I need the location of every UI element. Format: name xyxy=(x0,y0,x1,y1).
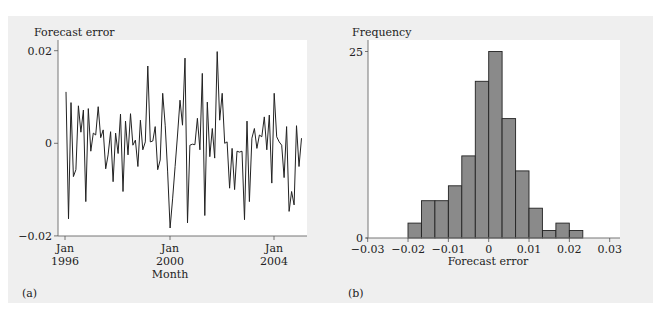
x-tick-label: −0.03 xyxy=(351,243,385,256)
x-axis-label: Month xyxy=(152,268,188,281)
x-tick-label: −0.02 xyxy=(391,243,425,256)
y-ticks: 0.020−0.02 xyxy=(18,45,58,243)
x-ticks: Jan1996Jan2000Jan2004 xyxy=(51,236,288,268)
x-axis-label: Forecast error xyxy=(448,255,529,268)
x-tick-label: 0.02 xyxy=(557,243,582,256)
histogram-bar xyxy=(475,81,488,238)
histogram-panel: Frequency 250 −0.03−0.02−0.0100.010.020.… xyxy=(348,26,622,300)
figure: Forecast error 0.020−0.02 Jan1996Jan2000… xyxy=(0,0,660,313)
histogram-bar xyxy=(462,156,476,238)
histogram-bar xyxy=(502,119,515,238)
histogram-bar xyxy=(516,171,529,238)
histogram-bar xyxy=(408,223,421,238)
x-ticks: −0.03−0.02−0.0100.010.020.03 xyxy=(351,238,622,256)
panel-caption-a: (a) xyxy=(22,287,37,300)
x-tick-label-month: Jan xyxy=(55,242,74,255)
histogram-bar xyxy=(489,52,502,239)
histogram-bar xyxy=(543,231,557,239)
x-tick-label-month: Jan xyxy=(160,242,179,255)
histogram-bar xyxy=(448,186,461,238)
x-tick-label: 0.03 xyxy=(597,243,622,256)
x-tick-label-month: Jan xyxy=(264,242,283,255)
histogram-bar xyxy=(435,201,448,238)
y-axis-label: Forecast error xyxy=(34,26,115,39)
histogram-bar xyxy=(569,231,582,239)
histogram-bar xyxy=(529,208,542,238)
x-tick-label-year: 1996 xyxy=(51,255,79,268)
histogram-bar xyxy=(422,201,436,238)
x-tick-label-year: 2004 xyxy=(260,255,288,268)
y-tick-label: 0 xyxy=(45,137,52,150)
x-tick-label-year: 2000 xyxy=(156,255,184,268)
histogram-bar xyxy=(556,223,569,238)
y-tick-label: 0.02 xyxy=(28,45,53,58)
y-tick-label: 25 xyxy=(349,46,363,59)
panel-caption-b: (b) xyxy=(348,287,364,300)
y-axis-label: Frequency xyxy=(352,26,412,39)
y-tick-label: −0.02 xyxy=(18,230,52,243)
y-ticks: 250 xyxy=(349,46,368,246)
line-chart-panel: Forecast error 0.020−0.02 Jan1996Jan2000… xyxy=(18,26,307,300)
